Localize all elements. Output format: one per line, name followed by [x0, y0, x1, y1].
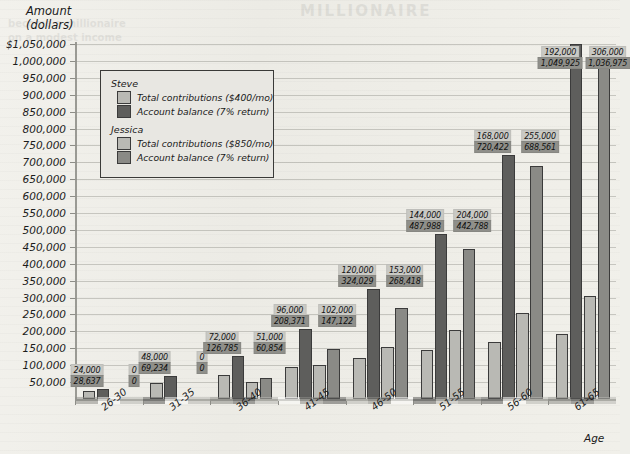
y-axis-tick-mark	[70, 162, 75, 163]
data-label-jessica_balance-26-30: 0	[129, 375, 140, 387]
y-axis-tick-mark	[70, 213, 75, 214]
y-axis-tick-mark	[70, 264, 75, 265]
bar-group-46-50	[353, 44, 407, 399]
bar-jessica_balance-46-50	[395, 308, 407, 399]
data-label-steve_balance-61-65: 1,049,925	[538, 57, 583, 69]
legend-item-steve-contributions: Total contributions ($400/mo)	[117, 91, 265, 104]
y-axis-tick-label: 950,000	[23, 72, 66, 84]
y-axis-tick-label: 850,000	[23, 106, 66, 118]
x-axis-tick-mark	[75, 401, 76, 405]
page-edge-segment	[143, 397, 166, 404]
data-label-steve_balance-51-55: 487,988	[406, 220, 444, 232]
bar-jessica_balance-56-60	[530, 166, 542, 399]
y-axis-tick-mark	[70, 247, 75, 248]
bar-steve_balance-31-35	[164, 376, 176, 399]
data-label-steve_balance-56-60: 720,422	[474, 141, 512, 153]
bar-steve_contrib-51-55	[421, 350, 433, 399]
bar-steve_balance-41-45	[299, 329, 311, 399]
y-axis-tick-mark	[70, 78, 75, 79]
chart-legend: Steve Total contributions ($400/mo) Acco…	[100, 70, 274, 178]
y-axis-tick-mark	[70, 129, 75, 130]
y-axis-tick-label: 1,000,000	[13, 55, 66, 67]
y-axis-tick-label: 700,000	[23, 156, 66, 168]
data-label-jessica_balance-41-45: 147,122	[318, 315, 356, 327]
y-axis-tick-label: 450,000	[23, 241, 66, 253]
y-axis-tick-mark	[70, 112, 75, 113]
legend-label-steve-contributions: Total contributions ($400/mo)	[137, 92, 273, 103]
y-axis-tick-label: 350,000	[23, 275, 66, 287]
y-axis-tick-mark	[70, 331, 75, 332]
data-label-steve_balance-31-35: 69,234	[138, 362, 171, 374]
page-edge-segment	[75, 397, 98, 404]
y-axis-tick-mark	[70, 298, 75, 299]
y-axis-tick-label: 500,000	[23, 224, 66, 236]
bar-group-61-65	[556, 44, 610, 399]
bar-steve_balance-51-55	[435, 234, 447, 399]
y-axis-tick-mark	[70, 348, 75, 349]
y-axis-tick-label: 300,000	[23, 292, 66, 304]
bar-steve_contrib-41-45	[285, 367, 297, 399]
bar-steve_contrib-36-40	[218, 375, 230, 399]
y-axis-title: Amount (dollars)	[26, 4, 116, 32]
y-axis-tick-label: 200,000	[23, 325, 66, 337]
bar-steve_balance-61-65	[570, 44, 582, 399]
page-edge-segment	[481, 397, 504, 404]
y-axis-tick-mark	[70, 230, 75, 231]
x-axis-tick-mark	[143, 401, 144, 405]
x-axis-tick-mark	[413, 401, 414, 405]
data-label-jessica_balance-46-50: 268,418	[386, 275, 424, 287]
y-axis-tick-label: 650,000	[23, 173, 66, 185]
x-axis-tick-mark	[481, 401, 482, 405]
legend-swatch-jessica-balance-icon	[117, 151, 131, 164]
y-axis-tick-mark	[70, 196, 75, 197]
bar-jessica_balance-51-55	[463, 249, 475, 399]
y-axis-tick-mark	[70, 95, 75, 96]
y-axis-tick-label: 50,000	[29, 376, 66, 388]
y-axis-tick-mark	[70, 61, 75, 62]
legend-label-jessica-contributions: Total contributions ($850/mo)	[137, 138, 273, 149]
legend-label-jessica-balance: Account balance (7% return)	[137, 152, 269, 163]
x-axis-title: Age	[584, 432, 604, 444]
bar-group-56-60	[488, 44, 542, 399]
data-label-jessica_balance-36-40: 60,854	[253, 342, 286, 354]
bar-group-41-45	[285, 44, 339, 399]
y-axis-tick-label: 150,000	[23, 342, 66, 354]
x-axis-tick-mark	[278, 401, 279, 405]
y-axis-tick-mark	[70, 179, 75, 180]
page-edge-segment	[278, 397, 301, 404]
y-axis-tick-mark	[70, 145, 75, 146]
y-axis-tick-label: 100,000	[23, 359, 66, 371]
legend-label-steve-balance: Account balance (7% return)	[137, 106, 269, 117]
bar-steve_balance-36-40	[232, 356, 244, 399]
legend-swatch-steve-balance-icon	[117, 105, 131, 118]
y-axis-tick-label: 550,000	[23, 207, 66, 219]
x-axis-tick-mark	[548, 401, 549, 405]
bar-jessica_balance-61-65	[598, 48, 610, 399]
data-label-jessica_balance-51-55: 442,788	[454, 220, 492, 232]
y-axis-tick-label: 800,000	[23, 123, 66, 135]
y-axis-title-line1: Amount	[26, 4, 116, 18]
x-axis-tick-mark	[346, 401, 347, 405]
y-axis-tick-mark	[70, 281, 75, 282]
y-axis-tick-label: 400,000	[23, 258, 66, 270]
data-label-steve_balance-26-30: 28,637	[71, 375, 104, 387]
y-axis-title-line2: (dollars)	[26, 18, 116, 32]
bar-steve_balance-46-50	[367, 289, 379, 399]
y-axis-tick-label: $1,050,000	[6, 38, 66, 50]
y-axis-tick-mark	[70, 44, 75, 45]
data-label-steve_balance-41-45: 208,371	[271, 315, 309, 327]
y-axis-tick-label: 900,000	[23, 89, 66, 101]
page-edge-segment	[548, 397, 571, 404]
page-edge-segment	[413, 397, 436, 404]
page-edge-segment	[346, 397, 369, 404]
data-label-jessica_balance-61-65: 1,036,975	[585, 57, 630, 69]
legend-heading-steve: Steve	[111, 78, 265, 89]
y-axis-tick-label: 250,000	[23, 308, 66, 320]
x-axis-tick-mark	[210, 401, 211, 405]
bar-steve_contrib-56-60	[488, 342, 500, 399]
page-edge-segment	[210, 397, 233, 404]
legend-item-steve-balance: Account balance (7% return)	[117, 105, 265, 118]
bar-steve_contrib-46-50	[353, 358, 365, 399]
data-label-steve_balance-36-40: 126,785	[203, 342, 241, 354]
